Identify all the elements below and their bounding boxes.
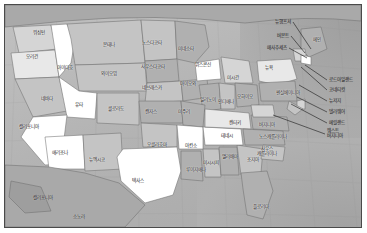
map-figure: 워싱턴오리건아이다호몬태나노스다코타미네소타사우스다코타와이오밍네바다유타콜로라… [0, 0, 367, 233]
leader-lines-layer [5, 5, 361, 227]
map-frame[interactable]: 워싱턴오리건아이다호몬태나노스다코타미네소타사우스다코타와이오밍네바다유타콜로라… [4, 4, 362, 228]
